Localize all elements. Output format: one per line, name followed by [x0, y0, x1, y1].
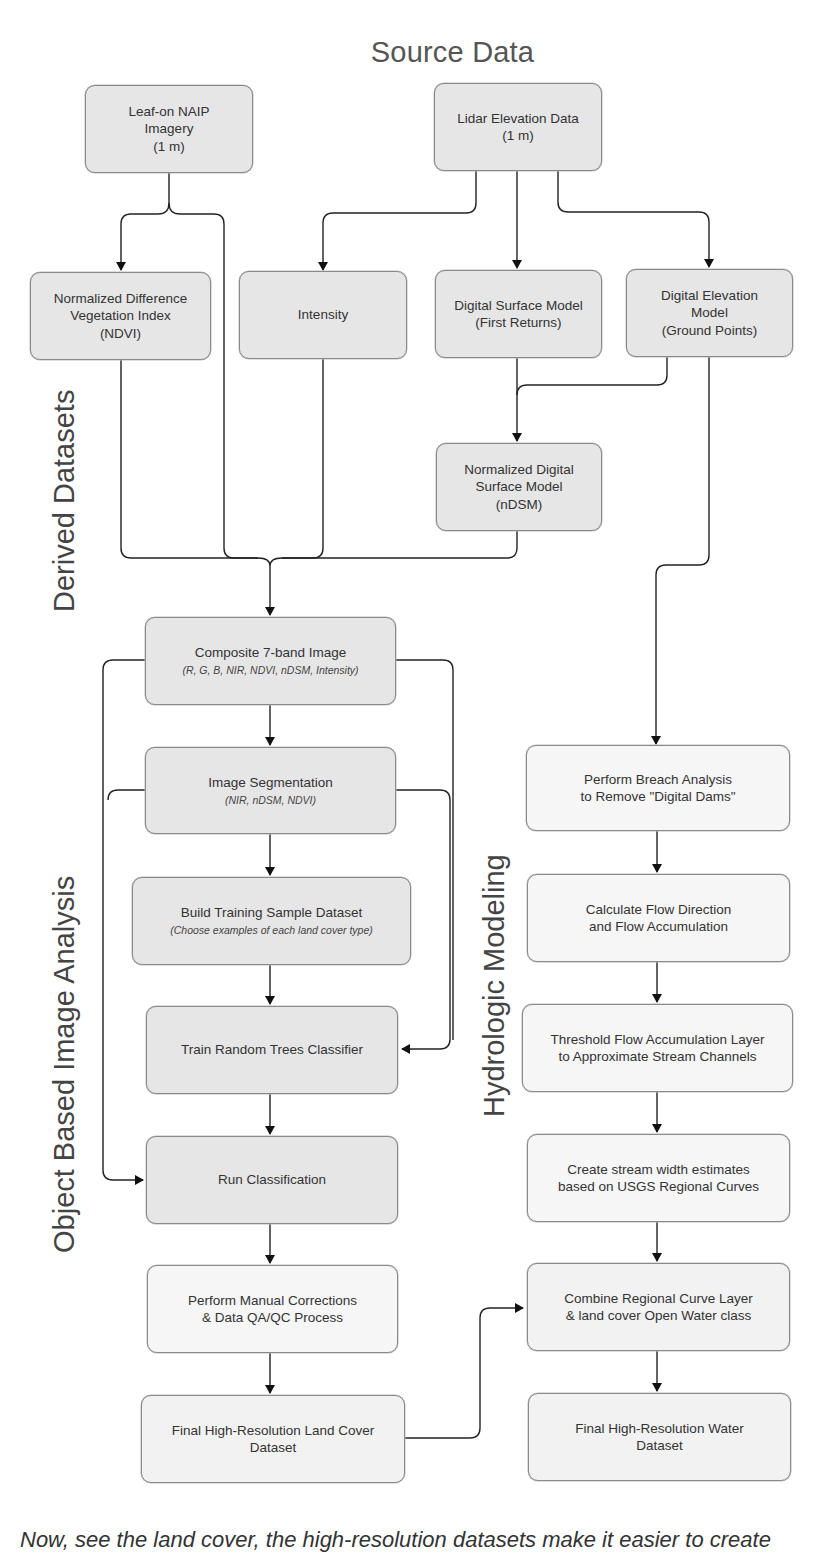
- box-text: to Approximate Stream Channels: [558, 1048, 756, 1065]
- box-composite-image: Composite 7-band Image (R, G, B, NIR, ND…: [145, 617, 396, 705]
- box-combine-regional: Combine Regional Curve Layer & land cove…: [527, 1263, 790, 1351]
- box-lidar-elevation: Lidar Elevation Data (1 m): [434, 83, 602, 171]
- section-label-hydro: Hydrologic Modeling: [478, 854, 511, 1117]
- box-text: (Ground Points): [662, 322, 757, 339]
- box-text: & Data QA/QC Process: [202, 1309, 343, 1326]
- box-run-classification: Run Classification: [146, 1136, 398, 1224]
- box-flow-direction: Calculate Flow Direction and Flow Accumu…: [527, 874, 790, 962]
- box-text: Combine Regional Curve Layer: [564, 1290, 752, 1307]
- box-text: Image Segmentation: [208, 774, 333, 791]
- box-text: and Flow Accumulation: [589, 918, 728, 935]
- box-text: Dataset: [636, 1437, 683, 1454]
- box-ndvi: Normalized Difference Vegetation Index (…: [30, 272, 211, 360]
- box-ndsm: Normalized Digital Surface Model (nDSM): [436, 443, 602, 531]
- box-final-water: Final High-Resolution Water Dataset: [528, 1393, 791, 1481]
- box-text: Leaf-on NAIP: [128, 103, 209, 120]
- box-threshold-flow: Threshold Flow Accumulation Layer to App…: [522, 1004, 793, 1092]
- box-text: Normalized Digital: [464, 461, 574, 478]
- box-text: Lidar Elevation Data: [457, 110, 579, 127]
- box-text: Threshold Flow Accumulation Layer: [551, 1031, 765, 1048]
- box-text: Surface Model: [475, 478, 562, 495]
- box-text: Dataset: [250, 1439, 297, 1456]
- box-stream-width: Create stream width estimates based on U…: [527, 1134, 790, 1222]
- box-subtext: (Choose examples of each land cover type…: [170, 924, 373, 937]
- box-dsm: Digital Surface Model (First Returns): [435, 270, 602, 358]
- box-text: Train Random Trees Classifier: [181, 1041, 363, 1058]
- box-dem: Digital Elevation Model (Ground Points): [626, 269, 793, 357]
- section-label-derived: Derived Datasets: [48, 390, 81, 612]
- box-text: (1 m): [153, 138, 185, 155]
- box-text: Vegetation Index: [70, 307, 171, 324]
- box-text: Perform Breach Analysis: [584, 771, 732, 788]
- box-naip-imagery: Leaf-on NAIP Imagery (1 m): [85, 85, 253, 173]
- box-text: Intensity: [298, 306, 348, 323]
- box-text: Imagery: [145, 120, 194, 137]
- box-text: Normalized Difference: [54, 290, 187, 307]
- box-text: Build Training Sample Dataset: [181, 904, 363, 921]
- box-text: Calculate Flow Direction: [586, 901, 732, 918]
- box-intensity: Intensity: [239, 271, 407, 359]
- box-text: Run Classification: [218, 1171, 326, 1188]
- box-build-training: Build Training Sample Dataset (Choose ex…: [132, 877, 411, 965]
- box-manual-corrections: Perform Manual Corrections & Data QA/QC …: [147, 1265, 398, 1353]
- box-text: Model: [691, 304, 728, 321]
- box-subtext: (NIR, nDSM, NDVI): [225, 794, 316, 807]
- box-text: Final High-Resolution Water: [575, 1420, 743, 1437]
- box-breach-analysis: Perform Breach Analysis to Remove "Digit…: [526, 745, 790, 831]
- box-final-land-cover: Final High-Resolution Land Cover Dataset: [141, 1395, 405, 1483]
- box-train-random-trees: Train Random Trees Classifier: [146, 1006, 398, 1094]
- box-text: & land cover Open Water class: [566, 1307, 752, 1324]
- section-label-obia: Object Based Image Analysis: [48, 876, 81, 1253]
- box-text: (1 m): [502, 127, 534, 144]
- box-image-segmentation: Image Segmentation (NIR, nDSM, NDVI): [145, 747, 396, 834]
- box-text: Final High-Resolution Land Cover: [172, 1422, 375, 1439]
- box-subtext: (R, G, B, NIR, NDVI, nDSM, Intensity): [182, 664, 358, 677]
- box-text: based on USGS Regional Curves: [558, 1178, 759, 1195]
- box-text: (NDVI): [100, 325, 141, 342]
- caption-text: Now, see the land cover, the high-resolu…: [20, 1527, 771, 1553]
- box-text: (nDSM): [496, 496, 543, 513]
- box-text: Digital Surface Model: [454, 297, 582, 314]
- box-text: Create stream width estimates: [567, 1161, 749, 1178]
- box-text: Digital Elevation: [661, 287, 758, 304]
- box-text: (First Returns): [475, 314, 561, 331]
- box-text: to Remove "Digital Dams": [580, 788, 735, 805]
- box-text: Perform Manual Corrections: [188, 1292, 357, 1309]
- box-text: Composite 7-band Image: [195, 644, 347, 661]
